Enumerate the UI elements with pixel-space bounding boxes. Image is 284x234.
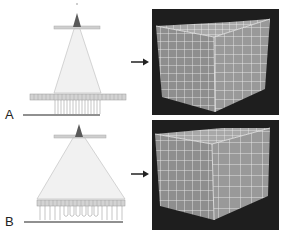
- voxel-cube-render-b: [152, 120, 279, 230]
- arrow-right-icon: [131, 58, 149, 66]
- beam-geometry-diagram-a: [0, 0, 140, 117]
- schematic-b: [0, 117, 140, 234]
- schematic-a: [0, 0, 140, 117]
- arrow-right-icon: [131, 170, 149, 178]
- render-panel-b: [152, 120, 279, 230]
- beam-geometry-diagram-b: [0, 117, 140, 234]
- render-panel-a: [152, 9, 279, 115]
- voxel-cube-render-a: [152, 9, 279, 115]
- panel-label-b: B: [5, 215, 14, 228]
